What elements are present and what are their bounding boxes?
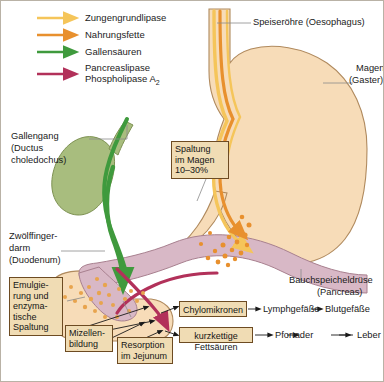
gastric-cleavage-line3: 10–30% (175, 165, 225, 176)
callout-resorption: Resorption im Jejunum (117, 337, 173, 364)
callout-gastric-cleavage: Spaltung im Magen 10–30% (171, 141, 229, 179)
label-pancreas-latin: (Pancreas) (317, 287, 362, 297)
label-stomach-latin: (Gaster) (349, 75, 383, 85)
callout-emulsification: Emulgie- rung und enzyma- tische Spaltun… (9, 277, 63, 336)
phospholipase-subscript: 2 (156, 79, 160, 86)
resorption-line1: Resorption (121, 340, 169, 351)
flow-blood-vessels: Blutgefäße (325, 304, 370, 314)
micelle-line2: bildung (69, 339, 109, 350)
callout-chylomicrons: Chylomikronen (179, 301, 247, 317)
label-bile-duct-latin1: (Ductus (11, 143, 43, 153)
label-duodenum-latin: (Duodenum) (9, 255, 61, 265)
chylomicrons-text: Chylomikronen (183, 305, 243, 316)
short-chain-text: kurzkettige Fettsäuren (183, 331, 249, 352)
legend-label-nahrungsfette: Nahrungsfette (85, 30, 145, 41)
label-duodenum: Zwölffinger- (9, 231, 57, 241)
gastric-cleavage-line2: im Magen (175, 155, 225, 166)
label-pancreas: Bauchspeicheldrüse (289, 275, 373, 285)
micelle-line1: Mizellen- (69, 328, 109, 339)
figure-fat-digestion: Zungengrundlipase Nahrungsfette Gallensä… (0, 0, 384, 382)
emulsification-line5: Spaltung (13, 322, 59, 333)
flow-lymph-vessels: Lymphgefäße (263, 304, 320, 314)
legend-label-gallensaeuren: Gallensäuren (85, 47, 142, 58)
emulsification-line1: Emulgie- (13, 280, 59, 291)
callout-micelle-formation: Mizellen- bildung (65, 325, 113, 352)
label-bile-duct: Gallengang (11, 131, 59, 141)
resorption-line2: im Jejunum (121, 351, 169, 362)
legend-arrows (35, 11, 81, 83)
legend-label-phospholipase: Phospholipase A2 (85, 74, 160, 87)
label-oesophagus: Speiseröhre (Oesophagus) (253, 17, 365, 27)
callout-short-chain-fatty-acids: kurzkettige Fettsäuren (179, 327, 253, 343)
label-stomach: Magen (356, 63, 384, 73)
emulsification-line4: tische (13, 312, 59, 323)
legend-label-zungengrundlipase: Zungengrundlipase (85, 13, 166, 24)
emulsification-line3: enzyma- (13, 301, 59, 312)
emulsification-line2: rung und (13, 291, 59, 302)
gastric-cleavage-line1: Spaltung (175, 144, 225, 155)
flow-liver: Leber (357, 330, 381, 340)
phospholipase-text: Phospholipase A (85, 73, 156, 84)
flow-portal-vein: Pfortader (275, 330, 313, 340)
label-bile-duct-latin2: choledochus) (11, 155, 66, 165)
label-duodenum-2: darm (9, 243, 30, 253)
